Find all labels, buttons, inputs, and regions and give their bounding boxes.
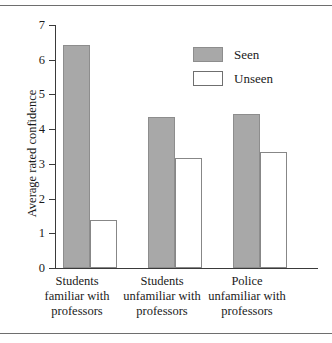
legend-swatch-seen-icon bbox=[193, 47, 223, 62]
x-category-label-2-line-2: professors bbox=[195, 304, 299, 319]
y-tick-label-6: 6 bbox=[15, 54, 45, 66]
y-tick-label-7: 7 bbox=[15, 19, 45, 31]
y-tick-label-2: 2 bbox=[15, 193, 45, 205]
x-category-label-2-line-1: unfamiliar with bbox=[195, 289, 299, 304]
y-tick-4 bbox=[49, 129, 55, 130]
bar-seen-group-0 bbox=[63, 45, 90, 268]
y-tick-label-5: 5 bbox=[15, 88, 45, 100]
y-tick-2 bbox=[49, 199, 55, 200]
bar-unseen-group-0 bbox=[90, 220, 117, 268]
legend-item-seen: Seen bbox=[193, 42, 273, 66]
x-category-label-2-line-0: Police bbox=[195, 274, 299, 289]
y-tick-1 bbox=[49, 233, 55, 234]
y-tick-0 bbox=[49, 268, 55, 269]
bar-seen-group-2 bbox=[233, 114, 260, 268]
y-tick-7 bbox=[49, 25, 55, 26]
y-tick-label-4: 4 bbox=[15, 123, 45, 135]
x-category-label-2: Police unfamiliar with professors bbox=[195, 274, 299, 319]
bar-unseen-group-2 bbox=[260, 152, 287, 268]
legend-label-seen: Seen bbox=[234, 48, 259, 61]
bar-chart-figure: Average rated confidence 7 6 5 4 3 2 1 0… bbox=[0, 0, 332, 343]
plot-area: Average rated confidence 7 6 5 4 3 2 1 0… bbox=[0, 0, 332, 343]
y-axis-line bbox=[55, 25, 56, 269]
y-tick-label-0: 0 bbox=[15, 262, 45, 274]
y-tick-6 bbox=[49, 60, 55, 61]
bar-unseen-group-1 bbox=[175, 158, 202, 268]
y-tick-label-1: 1 bbox=[15, 227, 45, 239]
y-tick-5 bbox=[49, 94, 55, 95]
bar-seen-group-1 bbox=[148, 117, 175, 268]
legend-label-unseen: Unseen bbox=[234, 72, 273, 85]
chart-legend: Seen Unseen bbox=[193, 42, 273, 90]
legend-item-unseen: Unseen bbox=[193, 66, 273, 90]
x-axis-line bbox=[55, 268, 318, 269]
y-tick-3 bbox=[49, 164, 55, 165]
legend-swatch-unseen-icon bbox=[193, 71, 223, 86]
y-tick-label-3: 3 bbox=[15, 158, 45, 170]
